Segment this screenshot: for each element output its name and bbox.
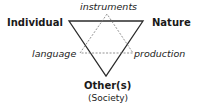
label-society: (Society) bbox=[88, 94, 128, 103]
label-production: production bbox=[134, 49, 185, 59]
label-others: Other(s) bbox=[84, 81, 131, 91]
solid-inverted-triangle bbox=[69, 21, 143, 76]
label-language: language bbox=[32, 49, 76, 59]
label-instruments: instruments bbox=[80, 2, 137, 12]
label-individual: Individual bbox=[7, 18, 63, 28]
label-nature: Nature bbox=[152, 18, 191, 28]
